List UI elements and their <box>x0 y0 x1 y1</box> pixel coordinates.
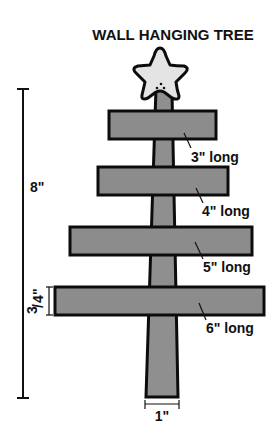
trunk-width-dimension: 1" <box>145 400 179 424</box>
thickness-label-mark: " <box>30 288 46 295</box>
board-thickness-dimension: 3 / 4 " <box>24 287 53 315</box>
height-label: 8" <box>30 179 44 195</box>
star-icon <box>134 48 187 99</box>
board-label: 3" long <box>191 149 239 165</box>
board-label: 6" long <box>206 320 254 336</box>
diagram-title: WALL HANGING TREE <box>92 26 253 43</box>
thickness-label-denominator: 4 <box>30 295 46 303</box>
wall-hanging-tree-diagram: WALL HANGING TREE 8" 3" long 4" long 5" … <box>0 0 276 443</box>
board-label: 4" long <box>202 203 250 219</box>
fraction-slash: / <box>30 304 46 308</box>
board-label: 5" long <box>203 259 251 275</box>
height-dimension: 8" <box>17 89 44 398</box>
trunk-width-label: 1" <box>155 408 169 424</box>
